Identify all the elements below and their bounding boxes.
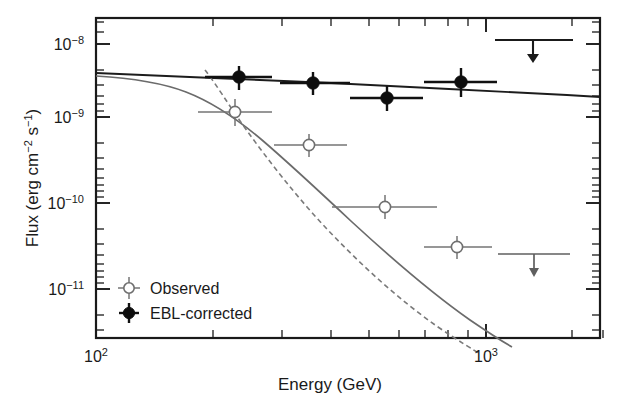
x-tick-label-0: 102 bbox=[84, 346, 108, 365]
legend-marker-observed bbox=[118, 277, 140, 299]
legend: Observed EBL-corrected bbox=[118, 277, 252, 323]
y-tick-label-3: 10−11 bbox=[48, 279, 84, 298]
data-point-ebl-1 bbox=[205, 66, 272, 90]
data-point-observed-3 bbox=[332, 195, 437, 219]
y-tick-label-2: 10−10 bbox=[48, 193, 84, 212]
y-axis-label: Flux (erg cm−2 s−1) bbox=[22, 109, 42, 247]
upper-limit-ebl bbox=[495, 40, 573, 63]
legend-label-ebl-corrected: EBL-corrected bbox=[150, 305, 252, 322]
flux-vs-energy-plot: 10−8 10−9 10−10 10−11 102 103 Energy (Ge… bbox=[0, 0, 624, 399]
data-point-observed-4 bbox=[424, 236, 492, 259]
y-tick-labels: 10−8 10−9 10−10 10−11 bbox=[48, 34, 84, 298]
x-tick-label-1: 103 bbox=[474, 346, 498, 365]
legend-marker-ebl-corrected bbox=[119, 303, 139, 323]
y-tick-label-1: 10−9 bbox=[54, 107, 84, 126]
data-point-ebl-3 bbox=[350, 86, 423, 111]
series-ebl-corrected bbox=[205, 40, 573, 111]
y-tick-label-0: 10−8 bbox=[54, 34, 84, 53]
figure-container: 10−8 10−9 10−10 10−11 102 103 Energy (Ge… bbox=[0, 0, 624, 399]
upper-limit-observed bbox=[498, 254, 570, 277]
x-tick-labels: 102 103 bbox=[84, 346, 498, 365]
legend-label-observed: Observed bbox=[150, 280, 219, 297]
data-point-ebl-4 bbox=[424, 68, 497, 97]
x-axis-label: Energy (GeV) bbox=[278, 375, 382, 394]
model-intrinsic-powerlaw bbox=[96, 73, 600, 97]
data-point-ebl-2 bbox=[280, 72, 350, 95]
data-point-observed-2 bbox=[274, 134, 347, 157]
